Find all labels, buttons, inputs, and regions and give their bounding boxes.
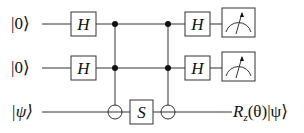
- control-dot: [165, 21, 171, 27]
- output-r: R: [233, 102, 243, 121]
- input-label-q0: |0⟩: [11, 15, 30, 32]
- h-gate-label: H: [185, 60, 210, 77]
- output-label: Rz(θ)|ψ⟩: [233, 103, 288, 123]
- s-gate-label: S: [130, 104, 153, 121]
- h-gate-label: H: [71, 60, 96, 77]
- h-gate-label: H: [185, 16, 210, 33]
- control-dot: [112, 21, 118, 27]
- output-rest: (θ)|ψ⟩: [248, 102, 288, 121]
- input-label-q2: |ψ⟩: [11, 103, 33, 120]
- control-dot: [112, 65, 118, 71]
- control-dot: [165, 65, 171, 71]
- h-gate-label: H: [71, 16, 96, 33]
- input-label-q1: |0⟩: [11, 59, 30, 76]
